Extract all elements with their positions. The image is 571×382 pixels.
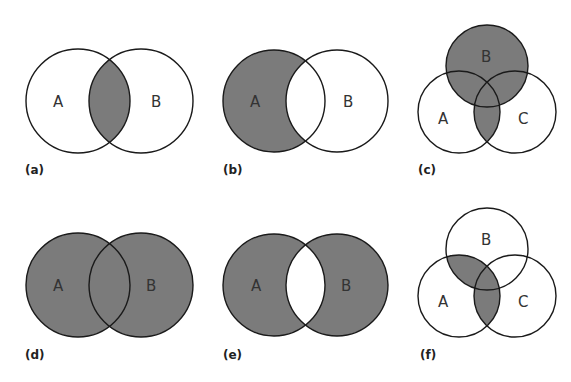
panel-label-e: (e) <box>223 348 242 362</box>
venn-panel-b: A B (b) <box>223 50 388 177</box>
venn-panel-f: B A C (f) <box>418 208 556 362</box>
set-label-b: B <box>343 93 353 111</box>
set-label-b: B <box>341 277 351 295</box>
panel-label-f: (f) <box>420 348 436 362</box>
set-label-b: B <box>146 277 156 295</box>
venn-panel-e: A B (e) <box>223 234 388 362</box>
panel-label-d: (d) <box>25 348 45 362</box>
venn-panel-a: A B (a) <box>25 49 193 177</box>
set-label-c: C <box>518 293 528 311</box>
set-label-b: B <box>151 93 161 111</box>
set-label-b: B <box>481 48 491 66</box>
set-label-a: A <box>53 277 64 295</box>
venn-diagram-figure: A B (a) A B (b) B A C (c) A B (d) <box>0 0 571 382</box>
set-label-a: A <box>438 110 449 128</box>
circle-b <box>286 50 388 152</box>
set-label-c: C <box>518 110 528 128</box>
panel-label-c: (c) <box>418 163 436 177</box>
set-label-a: A <box>250 93 261 111</box>
venn-panel-d: A B (d) <box>25 233 193 362</box>
panel-label-a: (a) <box>25 163 44 177</box>
set-label-a: A <box>53 93 64 111</box>
panel-label-b: (b) <box>223 163 243 177</box>
venn-panel-c: B A C (c) <box>418 25 556 177</box>
set-label-b: B <box>481 231 491 249</box>
set-label-a: A <box>251 277 262 295</box>
set-label-a: A <box>438 293 449 311</box>
